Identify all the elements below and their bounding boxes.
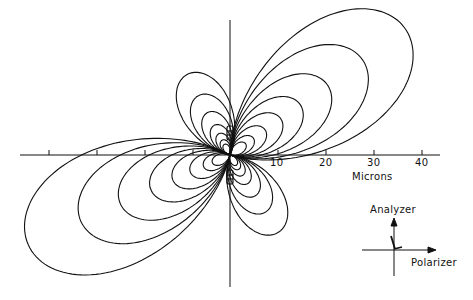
tick-label-40: 40: [415, 157, 428, 168]
tick-label-10: 10: [270, 157, 283, 168]
lobe-upper-right: [230, 45, 368, 159]
analyzer-label: Analyzer: [370, 204, 416, 215]
tick-label-30: 30: [367, 157, 380, 168]
polarizer-arrow-icon: [428, 247, 436, 253]
axis-ticks: [49, 150, 422, 155]
tick-label-20: 20: [319, 157, 332, 168]
polar-lobe-plot: [0, 0, 473, 300]
lobe-upper-right: [230, 9, 413, 160]
analyzer-arrow-icon: [391, 218, 397, 226]
lobe-curves: [25, 9, 414, 275]
lobe-lower-right: [228, 155, 273, 214]
axis-label-microns: Microns: [352, 171, 393, 182]
polarizer-label: Polarizer: [411, 257, 457, 268]
